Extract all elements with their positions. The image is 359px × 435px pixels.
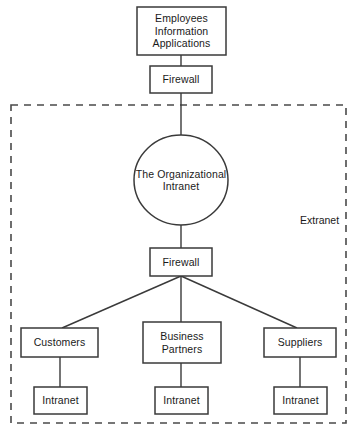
employees-information-applications-box[interactable] (137, 7, 226, 55)
suppliers-box[interactable] (264, 328, 336, 357)
intranet-suppliers-box[interactable] (274, 387, 327, 414)
intranet-customers-box[interactable] (34, 387, 87, 414)
network-architecture-diagram: Employees Information Applications Firew… (0, 0, 359, 435)
connector-firewall-bottom-to-customers (62, 276, 181, 328)
customers-box[interactable] (21, 328, 98, 357)
firewall-top-box[interactable] (150, 66, 212, 93)
intranet-business-partners-box[interactable] (155, 387, 208, 414)
firewall-bottom-box[interactable] (150, 248, 212, 276)
connector-firewall-bottom-to-suppliers (181, 276, 297, 328)
organizational-intranet-circle[interactable] (134, 135, 228, 225)
extranet-zone-label: Extranet (300, 214, 339, 226)
business-partners-box[interactable] (143, 322, 221, 363)
